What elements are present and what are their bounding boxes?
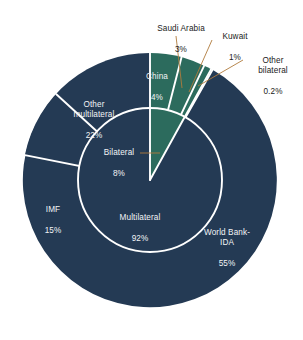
pie-chart-canvas	[0, 0, 303, 340]
pie-chart-figure: Saudi Arabia 3% Kuwait 1% Other bilatera…	[0, 0, 303, 340]
